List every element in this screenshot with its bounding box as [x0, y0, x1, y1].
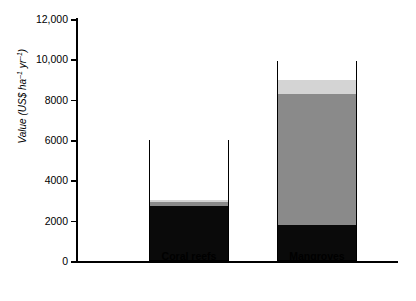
x-axis-line: [76, 261, 398, 263]
y-axis-title-sup1: –1: [16, 71, 23, 79]
bar-segment-white-segment: [150, 139, 228, 200]
y-tick-mark: [71, 261, 76, 263]
plot-area: 0200040006000800010,00012,000: [76, 18, 398, 262]
y-tick-mark: [71, 59, 76, 61]
bar-segment-light-grey-segment: [150, 200, 228, 203]
y-tick-label: 0: [62, 255, 68, 267]
y-tick-label: 8000: [45, 94, 68, 106]
y-axis-title-close: ): [17, 49, 28, 52]
y-tick-mark: [71, 100, 76, 102]
bar-segment-white-segment: [278, 60, 356, 79]
y-tick-label: 10,000: [36, 53, 68, 65]
y-axis-title-mid: yr: [17, 60, 28, 71]
y-tick-mark: [71, 19, 76, 21]
y-tick-mark: [71, 221, 76, 223]
chart-root: Value (US$ ha–1 yr–1) 020004000600080001…: [0, 0, 416, 301]
bar-segment-dark-grey-segment: [278, 94, 356, 225]
bar-mangroves: [277, 61, 357, 261]
y-axis-title: Value (US$ ha–1 yr–1): [16, 0, 28, 196]
x-category-label: Mangroves: [289, 250, 344, 262]
x-category-label: Coral reefs: [162, 250, 217, 262]
y-tick-label: 6000: [45, 134, 68, 146]
y-tick-label: 2000: [45, 215, 68, 227]
y-tick-mark: [71, 140, 76, 142]
y-tick-label: 4000: [45, 174, 68, 186]
y-axis-title-main: Value (US$ ha: [17, 79, 28, 144]
bar-segment-dark-grey-segment: [150, 202, 228, 205]
y-tick-mark: [71, 180, 76, 182]
bar-coral-reefs: [149, 140, 229, 261]
y-axis-line: [76, 18, 78, 262]
bar-segment-light-grey-segment: [278, 80, 356, 94]
y-tick-label: 12,000: [36, 13, 68, 25]
y-axis-title-sup2: –1: [16, 52, 23, 60]
